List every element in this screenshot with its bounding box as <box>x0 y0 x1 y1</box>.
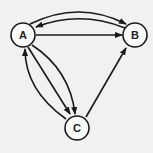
edge-c-to-b-straight <box>86 48 126 117</box>
edge-c-to-a-curved <box>25 49 66 119</box>
node-c: C <box>65 116 89 140</box>
edge-b-to-a-curved-lower <box>36 19 125 28</box>
node-b-label: B <box>131 29 139 41</box>
edge-a-to-c-curved <box>32 45 75 114</box>
node-a: A <box>11 23 35 47</box>
node-b: B <box>123 23 147 47</box>
node-c-label: C <box>73 122 81 134</box>
directed-graph: A B C <box>0 0 153 153</box>
node-a-label: A <box>19 29 27 41</box>
